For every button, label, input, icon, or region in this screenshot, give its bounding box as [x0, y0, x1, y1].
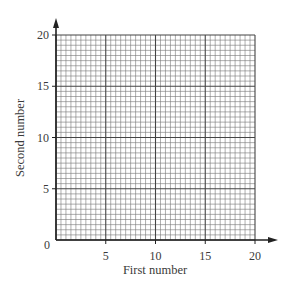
- x-tick-label: 10: [150, 249, 162, 263]
- x-axis-title: First number: [123, 263, 188, 277]
- y-tick-label: 5: [43, 182, 49, 196]
- y-tick-label: 10: [37, 131, 49, 145]
- x-tick-label: 20: [249, 249, 261, 263]
- x-tick-labels: 5101520: [103, 249, 261, 263]
- y-axis-arrow-icon: [53, 18, 59, 28]
- x-tick-label: 5: [103, 249, 109, 263]
- x-tick-label: 15: [199, 249, 211, 263]
- y-tick-label: 15: [37, 79, 49, 93]
- graph-paper-chart: 5101520 5101520 0 First number Second nu…: [0, 0, 292, 288]
- axis-ticks: [52, 35, 255, 244]
- origin-label: 0: [44, 238, 50, 252]
- y-tick-label: 20: [37, 28, 49, 42]
- y-tick-labels: 5101520: [37, 28, 49, 196]
- x-axis-arrow-icon: [268, 237, 278, 243]
- y-axis-title: Second number: [13, 98, 27, 177]
